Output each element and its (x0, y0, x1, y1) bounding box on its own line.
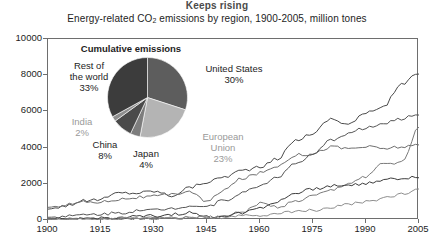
pie-label-united-states: United States 30% (188, 63, 280, 85)
chart-subtitle: Energy-related CO2 emissions by region, … (0, 13, 434, 24)
pie-label-european-union: European Union 23% (186, 131, 260, 164)
x-tick-label-1930: 1930 (131, 223, 175, 234)
x-tick-label-2005: 2005 (396, 223, 434, 234)
pie-label-japan: Japan 4% (124, 148, 168, 170)
y-tick-label-8000: 8000 (2, 68, 42, 79)
pie-label-rest-of-world: Rest of the world 33% (54, 60, 124, 93)
line-series-india (48, 189, 419, 220)
pie-label-china: China 8% (84, 139, 126, 161)
subtitle-post: emissions by region, 1900-2005, million … (156, 13, 366, 24)
chart-figure: Keeps rising Energy-related CO2 emission… (0, 0, 434, 246)
y-tick-label-4000: 4000 (2, 141, 42, 152)
x-tick-label-1975: 1975 (290, 223, 334, 234)
pie-title: Cumulative emissions (56, 43, 206, 54)
subtitle-pre: Energy-related CO (67, 13, 152, 24)
y-tick-label-6000: 6000 (2, 104, 42, 115)
x-tick-label-1990: 1990 (343, 223, 387, 234)
x-tick-label-1960: 1960 (237, 223, 281, 234)
chart-kicker: Keeps rising (0, 0, 434, 11)
x-tick-label-1945: 1945 (184, 223, 228, 234)
pie-label-india: India 2% (62, 116, 102, 138)
x-tick-label-1915: 1915 (78, 223, 122, 234)
x-tick-label-1900: 1900 (25, 223, 69, 234)
y-tick-label-10000: 10000 (2, 32, 42, 43)
y-tick-label-2000: 2000 (2, 177, 42, 188)
